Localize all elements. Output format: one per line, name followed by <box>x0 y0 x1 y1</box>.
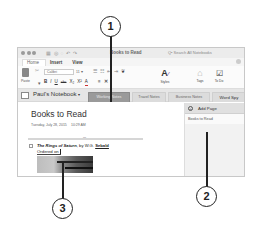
ordered-on-text[interactable]: Ordered on <box>37 149 61 155</box>
drag-dots: ••• <box>83 137 86 140</box>
strikethrough-button[interactable]: abc <box>61 79 67 86</box>
add-page-button[interactable]: + Add Page <box>185 103 244 114</box>
font-name-select[interactable]: Calibri <box>44 69 74 75</box>
callout-1: 1 <box>100 16 121 37</box>
superscript-button[interactable]: X² <box>77 79 82 86</box>
add-page-label: Add Page <box>198 106 217 111</box>
note-container-handle[interactable]: ••• <box>28 138 143 140</box>
checkbox-checked-icon: ☑ <box>212 68 226 79</box>
tags-label: Tags <box>193 79 207 83</box>
section-tab-travel-notes[interactable]: Travel Notes <box>132 92 166 102</box>
maximize-window-button[interactable] <box>32 51 36 55</box>
list-toolbar: ☰ ☷ ⇤ ⇥ ❦ <box>93 69 125 74</box>
align-icon[interactable]: ≡ <box>98 79 101 84</box>
undo-icon[interactable]: ↶ <box>66 51 70 56</box>
page-canvas[interactable]: Books to Read Tuesday, July 28, 2015 10:… <box>18 103 184 176</box>
callout-2: 2 <box>196 186 217 207</box>
increase-indent-icon[interactable]: ⇥ <box>114 69 118 74</box>
bullet-list-icon[interactable]: ☰ <box>93 69 97 74</box>
notebooks-icon[interactable]: ▦ <box>46 51 51 56</box>
font-size-select[interactable]: 11 ▾ <box>76 69 90 75</box>
notebook-selector[interactable]: Paul's Notebook ▾ <box>33 91 80 97</box>
callout-3-line <box>62 163 64 199</box>
book-cover-image[interactable] <box>37 156 93 173</box>
page-date: Tuesday, July 28, 2015 <box>31 123 67 127</box>
close-window-button[interactable] <box>21 51 25 55</box>
sync-icon[interactable]: ◎ <box>54 51 58 56</box>
content-area: Books to Read Tuesday, July 28, 2015 10:… <box>18 103 244 176</box>
note-text-line[interactable]: The Rings of Saturn, by W.G. Sebald <box>37 143 109 148</box>
todo-label: To Do <box>212 79 226 83</box>
italic-button[interactable]: I <box>50 79 51 86</box>
page-time: 10:29 AM <box>71 123 86 127</box>
minimize-window-button[interactable] <box>27 51 31 55</box>
clipboard-icon <box>22 68 29 77</box>
tags-button[interactable]: ⌂ Tags <box>193 68 207 83</box>
font-size-value: 11 <box>76 70 80 74</box>
page-title[interactable]: Books to Read <box>31 109 87 119</box>
print-icon[interactable]: ◌ <box>61 51 64 56</box>
page-list-pane: + Add Page Books to Read <box>184 103 244 176</box>
style-icon[interactable]: ❦ <box>121 69 125 74</box>
add-icon: + <box>188 106 193 111</box>
format-painter-icon[interactable]: ▾ <box>38 80 41 86</box>
cut-icon[interactable]: ✂ <box>35 67 39 73</box>
notebook-bar: Paul's Notebook ▾ Working Notes Travel N… <box>18 89 244 102</box>
subscript-button[interactable]: X₂ <box>69 79 74 86</box>
page-list-item[interactable]: Books to Read <box>185 114 244 124</box>
book-title: The Rings of Saturn <box>37 143 77 148</box>
underline-button[interactable]: U <box>55 79 58 86</box>
callout-2-line <box>206 132 208 188</box>
todo-button[interactable]: ☑ To Do <box>212 68 226 83</box>
callout-1-line <box>110 35 112 102</box>
styles-label: Styles <box>158 80 172 84</box>
ordered-on-label: Ordered on <box>37 149 59 154</box>
ribbon-tabs: Home Insert View <box>18 58 244 66</box>
bold-button[interactable]: B <box>44 79 47 86</box>
title-bar: ▦ ◎ ◌ ↶ ↷ Books to Read Q• Search All No… <box>18 48 244 58</box>
clear-formatting-icon[interactable]: ✕ <box>104 79 108 84</box>
font-color-button[interactable]: A <box>85 79 88 86</box>
ribbon-collapse-button[interactable] <box>236 59 241 64</box>
format-toolbar: B I U abc X₂ X² A <box>44 79 88 86</box>
paste-button[interactable]: Paste <box>21 68 31 83</box>
callout-3: 3 <box>52 198 73 219</box>
ribbon-home: Paste ✂ ▾ Calibri 11 ▾ B I U abc X₂ X² A… <box>18 66 244 89</box>
section-tab-word-spy[interactable]: Word Spy <box>212 92 245 102</box>
align-toolbar: ≡ ✕ <box>98 79 108 84</box>
paste-label: Paste <box>21 79 31 83</box>
section-tab-working-notes[interactable]: Working Notes <box>88 92 130 102</box>
numbered-list-icon[interactable]: ☷ <box>100 69 104 74</box>
styles-icon: A⁄ <box>158 68 172 80</box>
notebook-name: Paul's Notebook <box>33 91 77 97</box>
search-notebooks-input[interactable]: Q• Search All Notebooks <box>168 50 212 55</box>
book-by: , by W.G. <box>77 143 95 148</box>
tag-icon: ⌂ <box>193 68 207 79</box>
notebook-icon[interactable] <box>21 92 29 99</box>
redo-icon[interactable]: ↷ <box>73 51 77 56</box>
text-cursor <box>59 149 61 154</box>
section-tab-business-notes[interactable]: Business Notes <box>168 92 210 102</box>
tab-home[interactable]: Home <box>22 59 46 66</box>
styles-button[interactable]: A⁄ Styles <box>158 68 172 84</box>
todo-checkbox[interactable] <box>29 144 33 148</box>
book-author: Sebald <box>95 143 109 148</box>
image-detail <box>65 167 93 169</box>
onenote-window: ▦ ◎ ◌ ↶ ↷ Books to Read Q• Search All No… <box>17 47 245 177</box>
window-title: Books to Read <box>110 50 142 55</box>
